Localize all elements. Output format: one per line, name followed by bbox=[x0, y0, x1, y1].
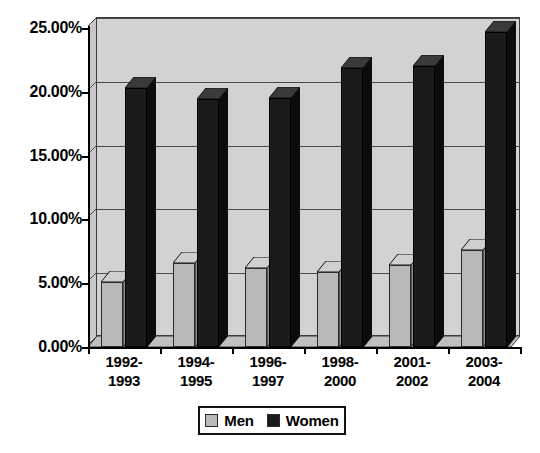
bar-front-face bbox=[461, 250, 483, 347]
x-axis-label-line: 2001- bbox=[376, 352, 448, 371]
y-axis-tick-label: 5.00% bbox=[4, 275, 82, 291]
bar-front-face bbox=[269, 98, 291, 347]
bar-side-face bbox=[363, 57, 372, 347]
x-axis-label-line: 2004 bbox=[448, 371, 520, 390]
y-axis-tick-label: 15.00% bbox=[4, 148, 82, 164]
y-axis-tick-label: 25.00% bbox=[4, 20, 82, 36]
bar-top-face bbox=[413, 55, 444, 66]
y-axis-labels: 0.00%5.00%10.00%15.00%20.00%25.00% bbox=[0, 0, 82, 453]
bar-side-face bbox=[507, 21, 516, 347]
x-axis-label-3: 1998-2000 bbox=[304, 352, 376, 390]
y-axis-tick-label: 20.00% bbox=[4, 84, 82, 100]
x-axis-label-line: 1993 bbox=[88, 371, 160, 390]
x-axis-label-1: 1994-1995 bbox=[160, 352, 232, 390]
bar-side-face bbox=[291, 87, 300, 347]
bar-front-face bbox=[125, 88, 147, 347]
bar-top-face bbox=[125, 77, 156, 88]
y-axis-tick-label: 0.00% bbox=[4, 339, 82, 355]
legend-swatch-icon bbox=[205, 414, 218, 427]
x-axis-label-line: 1994- bbox=[160, 352, 232, 371]
bar-front-face bbox=[245, 268, 267, 347]
gridline-side-25.00% bbox=[88, 17, 97, 26]
x-axis-label-line: 2002 bbox=[376, 371, 448, 390]
y-axis-line bbox=[88, 26, 90, 347]
x-axis-label-line: 1996- bbox=[232, 352, 304, 371]
bar-front-face bbox=[173, 263, 195, 347]
gridline-5.00% bbox=[97, 273, 519, 274]
gridline-10.00% bbox=[97, 209, 519, 210]
bar-front-face bbox=[389, 265, 411, 347]
x-axis-label-line: 1992- bbox=[88, 352, 160, 371]
bar-side-face bbox=[219, 88, 228, 347]
x-axis-label-line: 1997 bbox=[232, 371, 304, 390]
bar-women-0 bbox=[125, 77, 156, 347]
y-axis-tick-label: 10.00% bbox=[4, 211, 82, 227]
gridline-20.00% bbox=[97, 82, 519, 83]
y-axis-tick bbox=[82, 156, 89, 158]
legend-label: Women bbox=[286, 413, 339, 428]
x-axis-label-line: 1995 bbox=[160, 371, 232, 390]
bar-women-2 bbox=[269, 87, 300, 347]
bar-side-face bbox=[435, 55, 444, 347]
bar-women-3 bbox=[341, 57, 372, 347]
y-axis-tick bbox=[82, 28, 89, 30]
x-axis-label-2: 1996-1997 bbox=[232, 352, 304, 390]
bar-women-4 bbox=[413, 55, 444, 347]
bar-side-face bbox=[147, 77, 156, 347]
bar-top-face bbox=[269, 87, 300, 98]
x-axis-labels: 1992-19931994-19951996-19971998-20002001… bbox=[88, 352, 528, 402]
bar-front-face bbox=[413, 66, 435, 347]
bar-top-face bbox=[341, 57, 372, 68]
gridline-15.00% bbox=[97, 146, 519, 147]
legend-label: Men bbox=[224, 413, 253, 428]
y-axis-tick bbox=[82, 283, 89, 285]
bar-front-face bbox=[101, 282, 123, 347]
x-axis-label-4: 2001-2002 bbox=[376, 352, 448, 390]
gridline-25.00% bbox=[97, 18, 519, 19]
bar-front-face bbox=[485, 32, 507, 347]
bar-front-face bbox=[317, 272, 339, 347]
y-axis-tick bbox=[82, 92, 89, 94]
bar-top-face bbox=[197, 88, 228, 99]
x-axis-label-line: 2000 bbox=[304, 371, 376, 390]
legend-swatch-icon bbox=[267, 414, 280, 427]
bar-front-face bbox=[341, 68, 363, 347]
bar-women-5 bbox=[485, 21, 516, 347]
bar-top-face bbox=[485, 21, 516, 32]
x-axis-label-0: 1992-1993 bbox=[88, 352, 160, 390]
plot-area bbox=[88, 17, 520, 347]
bar-women-1 bbox=[197, 88, 228, 347]
plot-back-wall bbox=[96, 17, 520, 336]
chart-legend: MenWomen bbox=[198, 406, 346, 435]
bar-front-face bbox=[197, 99, 219, 347]
bar-chart: 0.00%5.00%10.00%15.00%20.00%25.00% 1992-… bbox=[0, 0, 540, 453]
x-axis-label-line: 1998- bbox=[304, 352, 376, 371]
legend-item-men[interactable]: Men bbox=[205, 413, 253, 428]
legend-item-women[interactable]: Women bbox=[267, 413, 339, 428]
x-axis-label-line: 2003- bbox=[448, 352, 520, 371]
x-axis-label-5: 2003-2004 bbox=[448, 352, 520, 390]
y-axis-tick bbox=[82, 219, 89, 221]
